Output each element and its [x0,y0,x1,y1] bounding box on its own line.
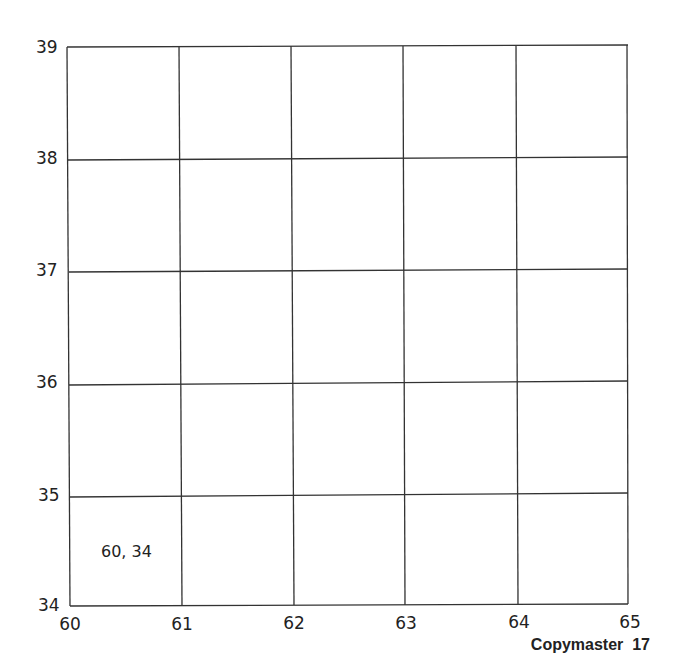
y-label-35: 35 [38,485,60,505]
x-label-61: 61 [171,614,193,634]
cell-coordinate-label: 60, 34 [101,542,152,561]
x-label-63: 63 [395,613,417,633]
y-label-34: 34 [38,595,60,615]
x-label-60: 60 [59,614,81,634]
y-label-37: 37 [36,260,58,280]
x-label-64: 64 [508,612,530,632]
x-label-62: 62 [283,613,305,633]
page-footer: Copymaster 17 [531,636,650,654]
y-label-39: 39 [36,37,58,57]
coordinate-grid [0,0,674,667]
x-label-65: 65 [619,612,641,632]
y-label-38: 38 [36,148,58,168]
y-label-36: 36 [36,372,58,392]
